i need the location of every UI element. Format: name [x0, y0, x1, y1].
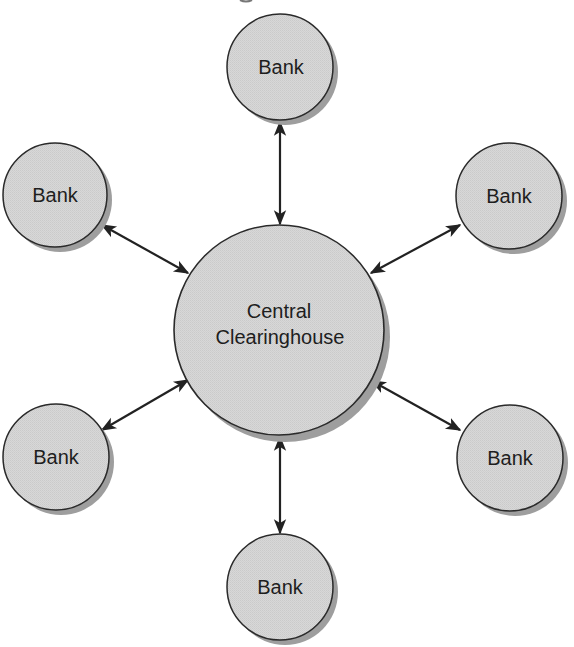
arrow-upper-left-hub — [102, 225, 188, 273]
arrow-lower-right-hub — [372, 381, 460, 430]
bank-node-top: Bank — [227, 14, 338, 125]
arrow-upper-right-hub — [371, 225, 460, 273]
hub-label-line1: Central — [247, 300, 311, 322]
bank-label: Bank — [487, 447, 534, 469]
central-clearinghouse-node: Central Clearinghouse — [174, 225, 390, 442]
bank-label: Bank — [33, 446, 80, 468]
bank-node-upper-left: Bank — [3, 143, 112, 252]
bank-label: Bank — [486, 185, 533, 207]
hub-label-line2: Clearinghouse — [216, 326, 345, 348]
arrow-lower-left-hub — [102, 380, 188, 430]
bank-node-lower-right: Bank — [457, 405, 568, 516]
bank-label: Bank — [257, 576, 304, 598]
bank-node-lower-left: Bank — [3, 404, 114, 515]
bank-node-bottom: Bank — [227, 534, 338, 645]
cropped-text-fragment — [240, 0, 252, 2]
bank-label: Bank — [32, 184, 79, 206]
bank-node-upper-right: Bank — [456, 143, 567, 254]
bank-label: Bank — [258, 56, 305, 78]
clearinghouse-diagram: Central Clearinghouse Bank Bank Bank Ban… — [0, 0, 574, 647]
